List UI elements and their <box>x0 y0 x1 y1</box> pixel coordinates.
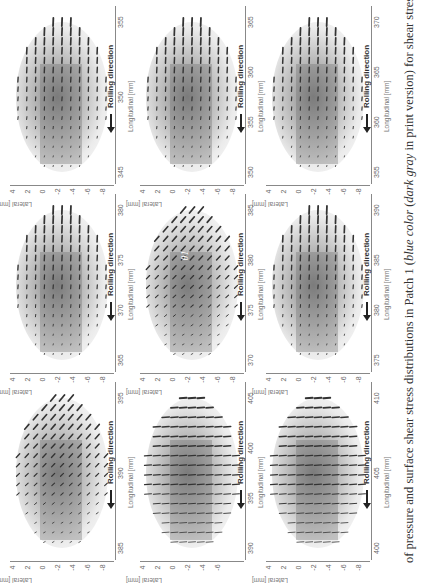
lateral-tick: -6 <box>84 562 91 574</box>
rolling-direction-label: Rolling direction <box>106 45 115 108</box>
longitudinal-tick: 405 <box>373 467 380 479</box>
theta-annotation: θ1 <box>179 251 190 261</box>
lateral-tick: -8 <box>99 562 106 574</box>
lateral-tick: 4 <box>265 562 272 574</box>
longitudinal-tick: 365 <box>373 66 380 78</box>
rolling-direction-label: Rolling direction <box>362 421 371 484</box>
lateral-tick: 2 <box>154 562 161 574</box>
rolling-direction-arrow-icon <box>110 114 112 128</box>
shear-vector-field <box>266 192 370 372</box>
lateral-tick: -4 <box>69 562 76 574</box>
lateral-tick: -2 <box>54 562 61 574</box>
longitudinal-axis <box>115 194 116 372</box>
pressure-field <box>140 380 244 560</box>
shear-vector-field <box>266 4 370 184</box>
longitudinal-tick: 365 <box>247 16 254 28</box>
longitudinal-tick: 355 <box>247 116 254 128</box>
shear-vector-field <box>266 380 370 560</box>
longitudinal-axis <box>245 194 246 372</box>
longitudinal-tick: 355 <box>373 166 380 178</box>
pressure-field <box>10 4 114 184</box>
rolling-direction-arrow-icon <box>366 114 368 128</box>
longitudinal-tick: 385 <box>117 542 124 554</box>
rolling-direction-label: Rolling direction <box>236 45 245 108</box>
lateral-axis-label: Lateral [mm] <box>126 577 162 584</box>
longitudinal-tick: 365 <box>117 354 124 366</box>
longitudinal-tick: 375 <box>373 354 380 366</box>
shear-vector-field <box>140 4 244 184</box>
rolling-direction-arrow-icon <box>240 114 242 128</box>
stress-panel: 390385380375420-2-4-6-8Longitudinal [mm]… <box>258 190 380 376</box>
shear-vector-field <box>10 4 114 184</box>
caption-text-3: in print version) for shear stress indic… <box>402 0 416 154</box>
stress-panel: 370365360355420-2-4-6-8Longitudinal [mm]… <box>258 2 380 188</box>
caption-text: of pressure and surface shear stress dis… <box>402 261 416 563</box>
rolling-direction-label: Rolling direction <box>106 233 115 296</box>
caption-text-2: ( <box>402 203 416 210</box>
longitudinal-tick: 405 <box>247 392 254 404</box>
longitudinal-axis-label: Longitudinal [mm] <box>383 269 390 320</box>
stress-panel: θ1385380375370420-2-4-6-8Longitudinal [m… <box>132 190 254 376</box>
longitudinal-tick: 360 <box>373 116 380 128</box>
lateral-tick: 4 <box>139 562 146 574</box>
longitudinal-tick: 350 <box>117 91 124 103</box>
lateral-tick: -4 <box>199 562 206 574</box>
rolling-direction-arrow-icon <box>110 490 112 504</box>
rolling-direction-arrow-icon <box>366 302 368 316</box>
longitudinal-axis <box>371 194 372 372</box>
stress-panel: 355350345420-2-4-6-8Longitudinal [mm]Lat… <box>2 2 124 188</box>
longitudinal-tick: 360 <box>247 66 254 78</box>
longitudinal-tick: 400 <box>247 442 254 454</box>
pressure-field <box>266 4 370 184</box>
lateral-tick: 0 <box>295 562 302 574</box>
rolling-direction-label: Rolling direction <box>106 421 115 484</box>
longitudinal-tick: 410 <box>373 392 380 404</box>
rolling-direction-label: Rolling direction <box>236 421 245 484</box>
caption-italic-blue: blue color <box>402 210 416 261</box>
longitudinal-axis <box>371 6 372 184</box>
longitudinal-axis <box>245 6 246 184</box>
lateral-tick: 0 <box>169 562 176 574</box>
longitudinal-tick: 355 <box>117 16 124 28</box>
shear-vector-field <box>140 380 244 560</box>
longitudinal-tick: 350 <box>247 166 254 178</box>
longitudinal-tick: 370 <box>373 16 380 28</box>
shear-vector-field <box>10 380 114 560</box>
stress-panel: 395390385420-2-4-6-8Longitudinal [mm]Lat… <box>2 378 124 564</box>
lateral-tick: -6 <box>214 562 221 574</box>
stress-panel: 380375370365420-2-4-6-8Longitudinal [mm]… <box>2 190 124 376</box>
caption-italic-gray: dark gray <box>402 154 416 203</box>
lateral-tick: 0 <box>39 562 46 574</box>
lateral-axis-label: Lateral [mm] <box>0 577 32 584</box>
longitudinal-axis <box>245 382 246 560</box>
lateral-tick: -8 <box>355 562 362 574</box>
longitudinal-tick: 385 <box>373 254 380 266</box>
shear-vector-field <box>140 192 244 372</box>
pressure-field <box>140 192 244 372</box>
longitudinal-axis-label: Longitudinal [mm] <box>383 81 390 132</box>
longitudinal-tick: 390 <box>117 467 124 479</box>
shear-vector-field <box>10 192 114 372</box>
lateral-tick: 4 <box>9 562 16 574</box>
pressure-field <box>10 192 114 372</box>
longitudinal-tick: 380 <box>117 204 124 216</box>
longitudinal-tick: 390 <box>247 542 254 554</box>
rolling-direction-label: Rolling direction <box>362 45 371 108</box>
pressure-field <box>10 380 114 560</box>
pressure-field <box>266 380 370 560</box>
longitudinal-tick: 380 <box>373 304 380 316</box>
longitudinal-tick: 385 <box>247 204 254 216</box>
rolling-direction-arrow-icon <box>240 302 242 316</box>
lateral-tick: 2 <box>24 562 31 574</box>
longitudinal-axis <box>115 382 116 560</box>
stress-panel: 405400395390420-2-4-6Longitudinal [mm]La… <box>132 378 254 564</box>
lateral-tick: -2 <box>310 562 317 574</box>
stress-panel: 410405400420-2-4-6-8Longitudinal [mm]Lat… <box>258 378 380 564</box>
rolling-direction-arrow-icon <box>240 490 242 504</box>
stress-panel: 365360355350420-2-4-6-8Longitudinal [mm]… <box>132 2 254 188</box>
longitudinal-tick: 390 <box>373 204 380 216</box>
pressure-field <box>140 4 244 184</box>
longitudinal-tick: 370 <box>117 304 124 316</box>
longitudinal-tick: 370 <box>247 354 254 366</box>
lateral-tick: -6 <box>340 562 347 574</box>
